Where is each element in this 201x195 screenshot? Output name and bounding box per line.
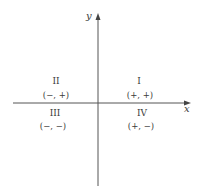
y-axis-label: y xyxy=(86,11,92,21)
quadrant-ii-signs: (−, +) xyxy=(43,91,69,100)
quadrant-iv-numeral: IV xyxy=(137,109,147,118)
quadrant-i-signs: (+, +) xyxy=(127,91,153,100)
axes-graphic xyxy=(0,0,201,195)
quadrant-i-numeral: I xyxy=(137,77,141,86)
x-axis-label: x xyxy=(184,104,190,114)
y-axis-arrow-icon xyxy=(96,13,101,20)
quadrant-iii-numeral: III xyxy=(50,109,61,118)
quadrant-ii-numeral: II xyxy=(52,77,59,86)
coordinate-plane: y x II (−, +) I (+, +) III (−, −) IV (+,… xyxy=(0,0,201,195)
quadrant-iii-signs: (−, −) xyxy=(40,122,66,131)
quadrant-iv-signs: (+, −) xyxy=(128,122,154,131)
